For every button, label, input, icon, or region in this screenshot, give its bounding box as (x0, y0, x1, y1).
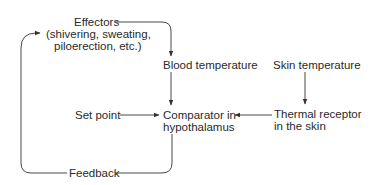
thermal-receptor-line1: Thermal receptor (274, 108, 362, 120)
comparator-line2: hypothalamus (163, 121, 235, 133)
blood-temperature-label: Blood temperature (163, 59, 258, 71)
skin-temperature-label: Skin temperature (273, 59, 361, 71)
set-point-label: Set point (75, 109, 120, 121)
line-comparator-to-feedback (115, 134, 172, 173)
effectors-examples-line1: (shivering, sweating, (46, 28, 151, 40)
arrow-feedback-to-effectors (21, 33, 67, 173)
thermal-receptor-line2: in the skin (274, 120, 326, 132)
effectors-examples-line2: piloerection, etc.) (54, 40, 142, 52)
thermoregulation-diagram: Effectors (shivering, sweating, piloerec… (0, 0, 376, 185)
feedback-label: Feedback (69, 167, 120, 179)
effectors-title: Effectors (74, 16, 119, 28)
comparator-line1: Comparator in (163, 109, 236, 121)
